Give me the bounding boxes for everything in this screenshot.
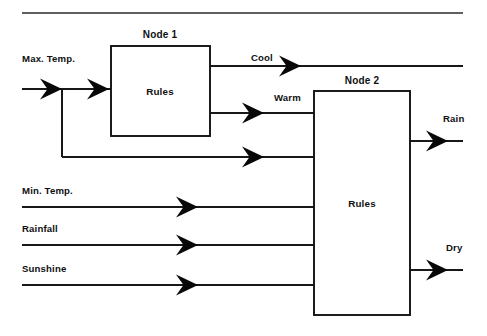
node-2-title: Node 2 — [345, 75, 380, 86]
flow-label-cool: Cool — [251, 52, 273, 63]
flow-label-warm: Warm — [274, 92, 301, 103]
node-1-body-label: Rules — [146, 86, 174, 97]
block-flow-diagram: Node 1 Rules Node 2 Rules Max. Temp. Min… — [0, 0, 487, 336]
node-2-body-label: Rules — [348, 198, 376, 209]
node-1-title: Node 1 — [143, 29, 178, 40]
input-label-min-temp: Min. Temp. — [22, 185, 73, 196]
output-label-rain: Rain — [443, 113, 464, 124]
input-label-sunshine: Sunshine — [22, 263, 66, 274]
input-label-max-temp: Max. Temp. — [22, 53, 75, 64]
output-label-dry: Dry — [446, 242, 463, 253]
input-label-rainfall: Rainfall — [22, 223, 58, 234]
diagram-canvas: Node 1 Rules Node 2 Rules Max. Temp. Min… — [0, 0, 487, 336]
